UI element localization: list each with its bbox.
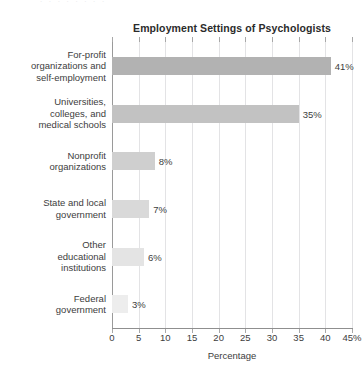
gridline-40	[325, 42, 326, 328]
x-tick-label-10: 10	[160, 332, 171, 343]
x-tick-label-20: 20	[213, 332, 224, 343]
bar[interactable]	[112, 57, 331, 75]
category-label-line: Federal	[2, 293, 106, 304]
y-axis-category-labels: For-profitorganizations andself-employme…	[0, 42, 106, 328]
plot-area: 41%35%8%7%6%3%	[112, 42, 352, 328]
bar-value-label: 7%	[153, 203, 167, 214]
category-label-line: Nonprofit	[2, 150, 106, 161]
gridline-35	[299, 42, 300, 328]
category-label: Nonprofitorganizations	[2, 150, 106, 173]
x-tick-label-15: 15	[187, 332, 198, 343]
bar-row: 41%	[112, 57, 352, 75]
x-tick-label-25: 25	[240, 332, 251, 343]
bar[interactable]	[112, 105, 299, 123]
x-axis-tick-labels: 051015202530354045%	[0, 332, 364, 348]
bar[interactable]	[112, 152, 155, 170]
bar[interactable]	[112, 295, 128, 313]
x-tick-label-40: 40	[320, 332, 331, 343]
tick-mark-top-5	[139, 37, 140, 42]
tick-mark-top-35	[299, 37, 300, 42]
category-label-line: medical schools	[2, 119, 106, 130]
tick-mark-top-0	[112, 37, 113, 42]
gridline-15	[192, 42, 193, 328]
category-label: State and localgovernment	[2, 197, 106, 220]
gridline-30	[272, 42, 273, 328]
category-label: Othereducationalinstitutions	[2, 239, 106, 273]
category-label-line: State and local	[2, 197, 106, 208]
bar-row: 3%	[112, 295, 352, 313]
bar-value-label: 3%	[132, 299, 146, 310]
gridline-25	[245, 42, 246, 328]
category-label-line: institutions	[2, 262, 106, 273]
gridline-5	[139, 42, 140, 328]
x-tick-label-0: 0	[109, 332, 114, 343]
x-tick-label-5: 5	[136, 332, 141, 343]
bar-value-label: 41%	[335, 60, 354, 71]
tick-mark-top-30	[272, 37, 273, 42]
tick-mark-top-45	[352, 37, 353, 42]
category-label-line: organizations	[2, 161, 106, 172]
tick-mark-top-25	[245, 37, 246, 42]
bar-row: 6%	[112, 248, 352, 266]
tick-mark-top-15	[192, 37, 193, 42]
x-tick-label-45: 45%	[342, 332, 361, 343]
gridline-45	[352, 42, 353, 328]
gridline-10	[165, 42, 166, 328]
category-label-line: colleges, and	[2, 108, 106, 119]
category-label: For-profitorganizations andself-employme…	[2, 49, 106, 83]
bar[interactable]	[112, 200, 149, 218]
category-label: Universities,colleges, andmedical school…	[2, 96, 106, 130]
category-label-line: Other	[2, 239, 106, 250]
gridline-20	[219, 42, 220, 328]
category-label-line: educational	[2, 251, 106, 262]
category-label-line: Universities,	[2, 96, 106, 107]
tick-mark-top-40	[325, 37, 326, 42]
category-label-line: self-employment	[2, 72, 106, 83]
bar-value-label: 35%	[303, 108, 322, 119]
bar-row: 35%	[112, 105, 352, 123]
category-label-line: government	[2, 304, 106, 315]
category-label-line: government	[2, 209, 106, 220]
tick-mark-top-10	[165, 37, 166, 42]
category-label-line: organizations and	[2, 60, 106, 71]
bar-chart: Employment Settings of Psychologists 41%…	[0, 0, 364, 374]
y-axis-line	[112, 42, 113, 328]
bar-row: 7%	[112, 200, 352, 218]
tick-mark-top-20	[219, 37, 220, 42]
category-label-line: For-profit	[2, 49, 106, 60]
x-axis-title: Percentage	[112, 350, 352, 361]
chart-title: Employment Settings of Psychologists	[112, 22, 352, 34]
x-tick-label-35: 35	[293, 332, 304, 343]
x-axis-line	[112, 328, 353, 329]
bar-value-label: 6%	[148, 251, 162, 262]
category-label: Federalgovernment	[2, 293, 106, 316]
bar-row: 8%	[112, 152, 352, 170]
bar-value-label: 8%	[159, 156, 173, 167]
bar[interactable]	[112, 248, 144, 266]
x-tick-label-30: 30	[267, 332, 278, 343]
